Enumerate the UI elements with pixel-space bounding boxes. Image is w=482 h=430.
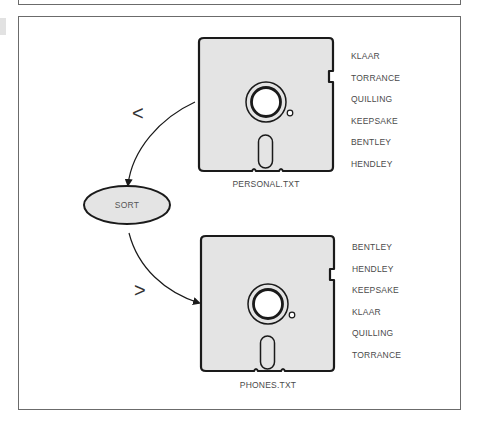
source-filename: PERSONAL.TXT [196, 179, 336, 189]
source-record: BENTLEY [351, 136, 400, 158]
greater-than-symbol: > [134, 280, 146, 300]
output-records-list: BENTLEY HENDLEY KEEPSAKE KLAAR QUILLING … [352, 241, 401, 370]
floppy-disk-icon-output [201, 236, 334, 371]
output-record: QUILLING [352, 327, 401, 349]
diagram-canvas [0, 0, 482, 430]
source-records-list: KLAAR TORRANCE QUILLING KEEPSAKE BENTLEY… [351, 50, 400, 179]
output-record: BENTLEY [352, 241, 401, 263]
source-record: TORRANCE [351, 72, 400, 94]
output-record: KEEPSAKE [352, 284, 401, 306]
source-record: KLAAR [351, 50, 400, 72]
source-record: KEEPSAKE [351, 115, 400, 137]
floppy-disk-icon-source [199, 38, 333, 171]
sort-label: SORT [84, 200, 170, 210]
source-record: QUILLING [351, 93, 400, 115]
output-record: HENDLEY [352, 263, 401, 285]
output-filename: PHONES.TXT [198, 380, 338, 390]
less-than-symbol: < [132, 103, 144, 123]
output-record: KLAAR [352, 306, 401, 328]
source-record: HENDLEY [351, 158, 400, 180]
output-record: TORRANCE [352, 349, 401, 371]
